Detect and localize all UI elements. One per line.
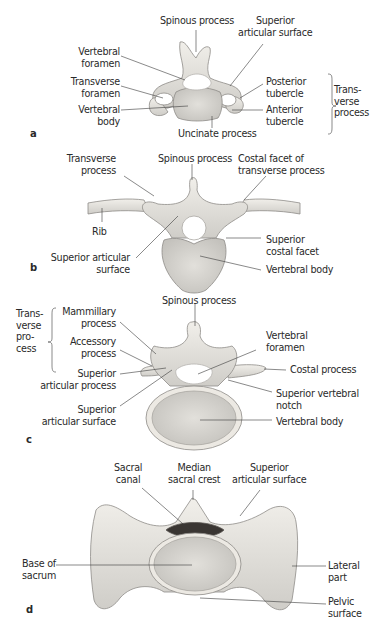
label-a-transverse-process-group: Trans- verse process <box>334 84 369 119</box>
label-b-superior-costal-facet: Superior costal facet <box>266 234 319 257</box>
label-b-superior-articular-surface: Superior articular surface <box>50 252 130 275</box>
label-b-costal-facet-of-transverse-process: Costal facet of transverse process <box>238 153 325 176</box>
label-c-superior-articular-process: Superior articular process <box>36 368 116 391</box>
label-b-vertebral-body: Vertebral body <box>266 264 333 276</box>
label-b-spinous-process: Spinous process <box>158 153 232 165</box>
panel-letter-d: d <box>26 604 33 615</box>
label-c-transverse-process-group: Trans- verse pro- cess <box>16 308 43 354</box>
label-c-costal-process: Costal process <box>290 364 356 376</box>
sacrum-drawing <box>91 498 298 610</box>
label-c-vertebral-foramen: Vertebral foramen <box>266 330 308 353</box>
vertebrae-illustration <box>0 0 373 627</box>
label-a-posterior-tubercle: Posterior tubercle <box>266 76 306 99</box>
label-a-vertebral-foramen: Vertebral foramen <box>74 46 120 69</box>
label-a-spinous-process: Spinous process <box>160 15 234 27</box>
label-d-lateral-part: Lateral part <box>328 560 360 583</box>
label-c-mammillary-process: Mammillary process <box>60 306 116 329</box>
label-d-sacral-canal: Sacral canal <box>114 462 142 485</box>
panel-letter-c: c <box>26 434 32 445</box>
label-c-superior-vertebral-notch: Superior vertebral notch <box>276 388 359 411</box>
label-d-base-of-sacrum: Base of sacrum <box>22 558 56 581</box>
label-c-accessory-process: Accessory process <box>60 336 116 359</box>
label-a-vertebral-body: Vertebral body <box>74 104 120 127</box>
label-c-vertebral-body: Vertebral body <box>276 416 343 428</box>
label-a-transverse-foramen: Transverse foramen <box>64 76 120 99</box>
label-d-pelvic-surface: Pelvic surface <box>328 596 362 619</box>
label-c-spinous-process: Spinous process <box>162 295 236 307</box>
label-b-rib: Rib <box>92 226 107 238</box>
label-a-superior-articular-surface: Superior articular surface <box>238 15 312 38</box>
label-a-anterior-tubercle: Anterior tubercle <box>266 104 303 127</box>
label-d-median-sacral-crest: Median sacral crest <box>168 462 220 485</box>
label-a-uncinate-process: Uncinate process <box>178 128 257 140</box>
panel-letter-a: a <box>30 128 37 139</box>
label-c-superior-articular-surface: Superior articular surface <box>36 404 116 427</box>
label-d-superior-articular-surface: Superior articular surface <box>232 462 306 485</box>
cervical-vertebra-drawing <box>149 42 243 121</box>
label-b-transverse-process: Transverse process <box>66 153 116 176</box>
lumbar-vertebra-drawing <box>141 322 266 450</box>
vertebrae-figure: Spinous process Superior articular surfa… <box>0 0 373 627</box>
panel-letter-b: b <box>30 262 37 273</box>
